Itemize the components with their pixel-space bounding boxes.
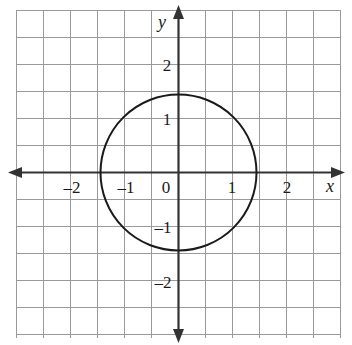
figure-root: y x –2 –1 0 1 2 2 1 –1 –2 bbox=[0, 0, 352, 345]
origin-label: 0 bbox=[162, 178, 171, 197]
x-axis-label: x bbox=[325, 176, 334, 196]
y-axis-label: y bbox=[156, 12, 166, 32]
x-tick-label-pos1: 1 bbox=[228, 178, 237, 197]
y-tick-label-neg2: –2 bbox=[154, 273, 172, 292]
y-axis bbox=[173, 5, 184, 343]
x-tick-label-neg2: –2 bbox=[63, 178, 81, 197]
x-tick-label-pos2: 2 bbox=[283, 178, 292, 197]
x-axis-arrow-left bbox=[8, 167, 22, 178]
x-axis bbox=[8, 167, 345, 178]
x-tick-label-neg1: –1 bbox=[117, 178, 135, 197]
y-axis-arrow-up bbox=[173, 5, 184, 19]
coordinate-plane-graphic: y x –2 –1 0 1 2 2 1 –1 –2 bbox=[0, 0, 352, 345]
y-axis-arrow-down bbox=[173, 329, 184, 343]
y-tick-label-pos2: 2 bbox=[163, 56, 172, 75]
y-tick-label-neg1: –1 bbox=[154, 218, 172, 237]
y-tick-label-pos1: 1 bbox=[163, 110, 172, 129]
